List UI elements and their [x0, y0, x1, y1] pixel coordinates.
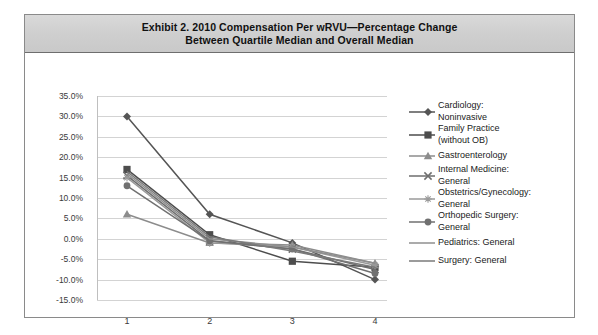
legend-label-line-1: Cardiology:	[438, 100, 487, 112]
circle-marker-icon	[409, 217, 435, 227]
legend-item-label: Orthopedic Surgery:General	[438, 210, 519, 233]
y-axis-tick-label: 0.0%	[64, 234, 83, 244]
asterisk-marker-icon	[409, 194, 435, 204]
legend-item-label: Cardiology:Noninvasive	[438, 100, 487, 123]
circle-marker-icon	[425, 218, 432, 225]
legend-label-line-1: Surgery: General	[438, 255, 507, 267]
exhibit-frame: Exhibit 2. 2010 Compensation Per wRVU—Pe…	[24, 14, 575, 318]
x-axis-tick-label: 2	[207, 316, 212, 326]
y-axis-tick-label: 25.0%	[59, 132, 83, 142]
y-axis-tick-label: -10.0%	[56, 275, 83, 285]
legend-item[interactable]: Gastroenterology	[409, 146, 579, 164]
legend-item[interactable]: Family Practice(without OB)	[409, 123, 579, 146]
x-axis-tick-label: 4	[372, 316, 377, 326]
exhibit-title-bar: Exhibit 2. 2010 Compensation Per wRVU—Pe…	[25, 15, 574, 53]
legend-label-line-2: General	[438, 222, 519, 234]
title-line-1: Exhibit 2. 2010 Compensation Per wRVU—Pe…	[142, 21, 458, 34]
legend-label-line-1: Family Practice	[438, 123, 500, 135]
legend-label-line-1: Pediatrics: General	[438, 237, 515, 249]
legend-item-label: Gastroenterology	[438, 150, 507, 162]
cross-marker-icon	[409, 171, 435, 181]
y-axis-tick-label: 30.0%	[59, 111, 83, 121]
chart-page: Exhibit 2. 2010 Compensation Per wRVU—Pe…	[0, 0, 598, 335]
legend-label-line-1: Orthopedic Surgery:	[438, 210, 519, 222]
legend-item-label: Family Practice(without OB)	[438, 123, 500, 146]
triangle-marker-icon	[409, 151, 435, 161]
x-axis-tick-label: 3	[290, 316, 295, 326]
y-axis-tick-label: 15.0%	[59, 173, 83, 183]
legend-item[interactable]: Internal Medicine:General	[409, 164, 579, 187]
y-axis-tick-label: -15.0%	[56, 295, 83, 305]
legend-item[interactable]: Orthopedic Surgery:General	[409, 210, 579, 233]
y-axis-tick-label: 20.0%	[59, 152, 83, 162]
x-axis-tick-labels: 1234	[97, 54, 387, 318]
chart-legend: Cardiology:NoninvasiveFamily Practice(wi…	[409, 100, 579, 269]
square-marker-icon	[409, 130, 435, 140]
legend-label-line-2: General	[438, 199, 531, 211]
chart-container: 35.0%30.0%25.0%20.0%15.0%10.0%5.0%0.0%-5…	[25, 54, 574, 318]
y-axis-tick-label: 5.0%	[64, 213, 83, 223]
diamond-marker-icon	[424, 108, 432, 116]
asterisk-marker-icon	[424, 195, 432, 203]
square-marker-icon	[424, 131, 431, 138]
y-axis-tick-labels: 35.0%30.0%25.0%20.0%15.0%10.0%5.0%0.0%-5…	[25, 54, 87, 318]
legend-item[interactable]: Surgery: General	[409, 251, 579, 269]
legend-label-line-1: Internal Medicine:	[438, 164, 509, 176]
legend-item[interactable]: Pediatrics: General	[409, 233, 579, 251]
y-axis-tick-label: 10.0%	[59, 193, 83, 203]
y-axis-tick-label: -5.0%	[61, 254, 83, 264]
line-marker-icon	[409, 256, 435, 266]
page-title: Exhibit 2. 2010 Compensation Per wRVU—Pe…	[142, 21, 458, 47]
legend-label-line-2: (without OB)	[438, 135, 500, 147]
x-axis-tick-label: 1	[124, 316, 129, 326]
legend-label-line-2: Noninvasive	[438, 112, 487, 124]
legend-item-label: Surgery: General	[438, 255, 507, 267]
diamond-marker-icon	[409, 107, 435, 117]
legend-item-label: Pediatrics: General	[438, 237, 515, 249]
legend-item-label: Internal Medicine:General	[438, 164, 509, 187]
line-marker-icon	[409, 238, 435, 248]
legend-label-line-2: General	[438, 176, 509, 188]
legend-label-line-1: Obstetrics/Gynecology:	[438, 187, 531, 199]
legend-item[interactable]: Cardiology:Noninvasive	[409, 100, 579, 123]
title-line-2: Between Quartile Median and Overall Medi…	[142, 34, 458, 47]
legend-item[interactable]: Obstetrics/Gynecology:General	[409, 187, 579, 210]
y-axis-tick-label: 35.0%	[59, 91, 83, 101]
legend-item-label: Obstetrics/Gynecology:General	[438, 187, 531, 210]
legend-label-line-1: Gastroenterology	[438, 150, 507, 162]
